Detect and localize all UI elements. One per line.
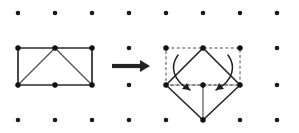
vertex-dot-bottom-left — [15, 82, 20, 87]
vertex-dot-top-right — [89, 45, 94, 50]
vertex-dot-top-mid — [52, 45, 57, 50]
vertex-dot-bottom — [200, 117, 205, 122]
grid-dot — [275, 118, 280, 123]
transformation-diagram — [0, 0, 299, 133]
grid-dot — [90, 118, 95, 123]
grid-dot — [53, 11, 58, 16]
canvas-background — [0, 0, 299, 133]
grid-dot — [90, 11, 95, 16]
vertex-dot-left — [163, 82, 168, 87]
grid-dot — [164, 11, 169, 16]
vertex-dot-bottom-mid — [52, 82, 57, 87]
grid-dot — [238, 11, 243, 16]
grid-dot — [16, 11, 21, 16]
figure-canvas — [0, 0, 299, 133]
vertex-dot-center — [200, 82, 205, 87]
grid-dot — [275, 46, 280, 51]
vertex-dot-top-left — [15, 45, 20, 50]
vertex-dot-top — [200, 45, 205, 50]
vertex-dot-right — [237, 82, 242, 87]
grid-dot — [275, 83, 280, 88]
grid-dot — [127, 11, 132, 16]
grid-dot — [164, 118, 169, 123]
vertex-dot-ghost-top-right — [237, 45, 242, 50]
vertex-dot-ghost-top-left — [163, 45, 168, 50]
grid-dot — [53, 118, 58, 123]
grid-dot — [127, 118, 132, 123]
grid-dot — [127, 46, 132, 51]
grid-dot — [275, 11, 280, 16]
vertex-dot-bottom-right — [89, 82, 94, 87]
grid-dot — [16, 118, 21, 123]
grid-dot — [238, 118, 243, 123]
grid-dot — [201, 11, 206, 16]
grid-dot — [127, 83, 132, 88]
